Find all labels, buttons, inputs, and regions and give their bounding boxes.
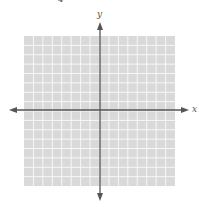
cropped-top-text: 4 xyxy=(58,0,63,4)
x-axis-right-arrow-icon xyxy=(181,107,189,113)
y-axis-down-arrow-icon xyxy=(97,193,103,201)
x-axis-label: x xyxy=(192,105,197,114)
coordinate-grid xyxy=(0,0,199,207)
y-axis-up-arrow-icon xyxy=(97,22,103,30)
coordinate-plane: 4 y x xyxy=(0,0,199,207)
y-axis-label: y xyxy=(97,10,102,19)
x-axis-left-arrow-icon xyxy=(9,107,17,113)
